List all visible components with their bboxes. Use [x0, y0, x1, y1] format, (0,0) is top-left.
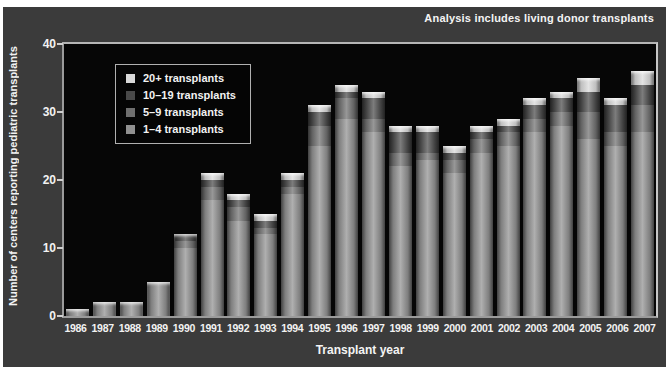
bar-segment [443, 173, 466, 316]
bar-segment [308, 146, 331, 316]
bar-1993 [254, 214, 277, 316]
bar-segment [497, 146, 520, 316]
bar-segment [577, 78, 600, 92]
bar-segment [631, 132, 654, 316]
bar-2005 [577, 78, 600, 316]
x-tick-label: 1991 [197, 322, 224, 334]
bar-segment [308, 126, 331, 146]
x-axis-title: Transplant year [62, 343, 658, 357]
bar-segment [147, 282, 170, 316]
x-tick-label: 1999 [414, 322, 441, 334]
legend-swatch-icon [126, 125, 135, 134]
bar-segment [416, 160, 439, 316]
bar-1995 [308, 105, 331, 316]
bar-segment [281, 194, 304, 316]
bar-segment [254, 228, 277, 235]
legend-item: 10–19 transplants [126, 89, 236, 101]
x-tick-label: 2001 [468, 322, 495, 334]
x-tick-label: 1998 [387, 322, 414, 334]
y-tick-label: 20 [26, 173, 56, 187]
x-tick-label: 2002 [496, 322, 523, 334]
bar-segment [174, 234, 197, 241]
bar-segment [174, 241, 197, 248]
bar-2000 [443, 146, 466, 316]
bar-2004 [550, 92, 573, 316]
bar-segment [254, 214, 277, 221]
x-tick-label: 1995 [306, 322, 333, 334]
x-tick-label: 2003 [523, 322, 550, 334]
bar-segment [389, 166, 412, 316]
bar-segment [335, 119, 358, 316]
x-tick-label: 2005 [577, 322, 604, 334]
bar-segment [281, 180, 304, 187]
bar-segment [470, 139, 493, 153]
bar-segment [497, 126, 520, 133]
bar-1991 [201, 173, 224, 316]
y-tick-label: 10 [26, 241, 56, 255]
legend: 20+ transplants10–19 transplants5–9 tran… [115, 64, 251, 144]
bar-segment [631, 105, 654, 132]
bar-segment [470, 153, 493, 316]
bar-segment [604, 105, 627, 132]
legend-swatch-icon [126, 74, 135, 83]
bar-1987 [93, 302, 116, 316]
bar-segment [523, 119, 546, 133]
bar-segment [362, 132, 385, 316]
x-tick-label: 1987 [89, 322, 116, 334]
bar-segment [93, 302, 116, 316]
bar-segment [604, 132, 627, 146]
x-tick-label: 2004 [550, 322, 577, 334]
x-tick-label: 1990 [170, 322, 197, 334]
bar-segment [335, 85, 358, 92]
x-tick-label: 1993 [252, 322, 279, 334]
legend-swatch-icon [126, 108, 135, 117]
bar-segment [335, 92, 358, 99]
bar-segment [227, 194, 250, 201]
bar-segment [308, 112, 331, 126]
bar-2002 [497, 119, 520, 316]
bar-1996 [335, 85, 358, 316]
bar-2003 [523, 98, 546, 316]
bar-segment [254, 234, 277, 316]
bar-1998 [389, 126, 412, 316]
x-tick-label: 1988 [116, 322, 143, 334]
y-tick-label: 30 [26, 105, 56, 119]
bar-segment [631, 85, 654, 105]
legend-item: 5–9 transplants [126, 106, 236, 118]
bar-segment [201, 180, 224, 187]
bar-1989 [147, 282, 170, 316]
x-tick-label: 1996 [333, 322, 360, 334]
bar-segment [389, 132, 412, 152]
x-tick-label: 2006 [604, 322, 631, 334]
bar-segment [550, 98, 573, 112]
y-tick-label: 0 [26, 309, 56, 323]
bar-1990 [174, 234, 197, 316]
y-tick-label: 40 [26, 37, 56, 51]
bar-segment [362, 98, 385, 118]
y-axis-title: Number of centers reporting pediatric tr… [5, 35, 21, 318]
bar-segment [362, 119, 385, 133]
x-tick-label: 1997 [360, 322, 387, 334]
bar-1997 [362, 92, 385, 316]
bar-1999 [416, 126, 439, 316]
bar-segment [523, 132, 546, 316]
bar-segment [416, 126, 439, 133]
bar-segment [389, 153, 412, 167]
figure: Analysis includes living donor transplan… [0, 0, 666, 377]
bar-1988 [120, 302, 143, 316]
bar-segment [470, 132, 493, 139]
bar-segment [335, 98, 358, 118]
bar-segment [497, 132, 520, 146]
x-tick-label: 1986 [62, 322, 89, 334]
bar-segment [201, 173, 224, 180]
bar-segment [470, 126, 493, 133]
legend-item: 1–4 transplants [126, 123, 236, 135]
y-tick-mark [57, 111, 63, 113]
bar-segment [577, 92, 600, 112]
bar-segment [281, 187, 304, 194]
bar-segment [604, 98, 627, 105]
bar-segment [550, 112, 573, 126]
x-tick-label: 1994 [279, 322, 306, 334]
bar-segment [577, 139, 600, 316]
figure-panel: Analysis includes living donor transplan… [3, 7, 666, 367]
